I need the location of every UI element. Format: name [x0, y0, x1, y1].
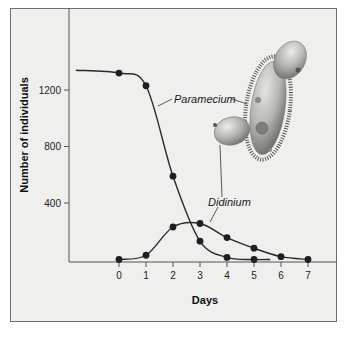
paramecium-label: Paramecium [174, 93, 236, 105]
didinium-data-point [116, 256, 123, 263]
chart-plot: 4008001200 01234567 Days Number of indiv… [0, 0, 346, 337]
didinium-top-spot [296, 68, 301, 73]
x-tick-label: 6 [278, 270, 284, 281]
didinium-data-point [278, 253, 285, 260]
didinium-data-point [251, 245, 258, 252]
paramecium-data-point [251, 256, 258, 263]
didinium-annotation: Didinium [208, 145, 251, 222]
y-tick-label: 1200 [39, 85, 62, 96]
x-axis-title: Days [192, 294, 218, 306]
didinium-data-point [224, 234, 231, 241]
didinium-leader-down [210, 207, 218, 222]
y-tick-label: 800 [44, 141, 61, 152]
didinium-left-spot [213, 123, 217, 127]
x-tick-label: 2 [170, 270, 176, 281]
paramecium-data-point [116, 70, 123, 77]
paramecium-data-point [143, 82, 150, 89]
didinium-data-point [197, 220, 204, 227]
didinium-data-point [170, 224, 177, 231]
x-tick-label: 5 [251, 270, 257, 281]
paramecium-annotation: Paramecium [158, 93, 247, 106]
y-axis-ticks: 4008001200 [39, 85, 69, 209]
paramecium-nucleus [255, 97, 261, 103]
x-tick-label: 4 [224, 270, 230, 281]
didinium-data-point [143, 252, 150, 259]
paramecium-data-point [197, 238, 204, 245]
didinium-label: Didinium [208, 196, 251, 208]
x-tick-label: 1 [143, 270, 149, 281]
paramecium-leader-left [158, 99, 172, 106]
x-tick-label: 3 [197, 270, 203, 281]
didinium-data-point [305, 256, 312, 263]
didinium-leader-up [220, 145, 222, 197]
x-tick-label: 0 [116, 270, 122, 281]
didinium-left-body [211, 113, 253, 149]
paramecium-curve [76, 70, 270, 259]
y-tick-label: 400 [44, 198, 61, 209]
x-tick-label: 7 [305, 270, 311, 281]
x-axis-ticks: 01234567 [116, 262, 311, 281]
paramecium-vacuole [256, 122, 268, 134]
paramecium-data-point [170, 173, 177, 180]
paramecium-data-point [224, 254, 231, 261]
paramecium-spot [268, 148, 272, 152]
y-axis-title: Number of individuals [18, 77, 30, 193]
